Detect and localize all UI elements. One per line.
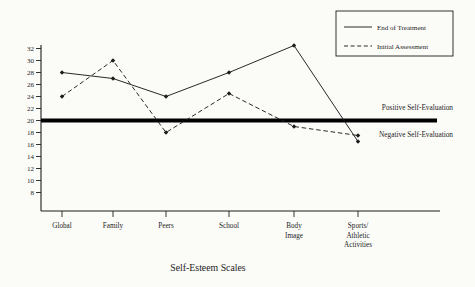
legend-label: End of Treatment xyxy=(377,24,426,32)
data-point-marker xyxy=(60,70,65,75)
x-tick-label-line: Activities xyxy=(344,241,372,249)
data-point-marker xyxy=(227,70,232,75)
x-tick-label: Global xyxy=(52,222,72,230)
y-tick-label: 28 xyxy=(27,69,35,77)
x-axis-title: Self-Esteem Scales xyxy=(170,262,246,273)
x-tick-label-line: Image xyxy=(285,232,303,240)
data-point-marker xyxy=(356,133,361,138)
data-point-marker xyxy=(227,91,232,96)
x-tick-label: School xyxy=(219,222,239,230)
x-tick-label-line: Peers xyxy=(158,222,174,230)
y-tick-label: 26 xyxy=(27,81,35,89)
x-tick-label: Sports/AthleticActivities xyxy=(344,222,372,249)
y-tick-label: 30 xyxy=(27,57,35,65)
x-tick-label-line: School xyxy=(219,222,239,230)
x-tick-label-line: Body xyxy=(286,222,302,230)
annotation-positive: Positive Self-Evaluation xyxy=(382,103,453,112)
legend-label: Initial Assessment xyxy=(377,43,428,51)
y-tick-label: 22 xyxy=(27,105,35,113)
x-tick-label-line: Athletic xyxy=(346,232,369,240)
y-tick-label: 32 xyxy=(27,45,35,53)
x-tick-label-line: Global xyxy=(52,222,72,230)
y-tick-label: 20 xyxy=(27,117,35,125)
y-tick-label: 12 xyxy=(27,165,35,173)
data-point-marker xyxy=(111,76,116,81)
y-tick-label: 18 xyxy=(27,129,35,137)
series-line-dashed xyxy=(62,61,358,136)
x-tick-label: Peers xyxy=(158,222,174,230)
x-tick-label: BodyImage xyxy=(285,222,303,240)
chart-svg: 8101214161820222426283032GlobalFamilyPee… xyxy=(0,0,475,287)
y-tick-label: 14 xyxy=(27,153,35,161)
data-point-marker xyxy=(164,94,169,99)
data-point-marker xyxy=(292,124,297,129)
figure: 8101214161820222426283032GlobalFamilyPee… xyxy=(0,0,475,287)
annotation-negative: Negative Self-Evaluation xyxy=(379,130,453,139)
x-tick-label-line: Family xyxy=(103,222,124,230)
series-line-solid xyxy=(62,46,358,142)
y-tick-label: 8 xyxy=(31,189,35,197)
y-tick-label: 24 xyxy=(27,93,35,101)
y-tick-label: 10 xyxy=(27,177,35,185)
x-tick-label: Family xyxy=(103,222,124,230)
x-tick-label-line: Sports/ xyxy=(348,222,368,230)
y-tick-label: 16 xyxy=(27,141,35,149)
